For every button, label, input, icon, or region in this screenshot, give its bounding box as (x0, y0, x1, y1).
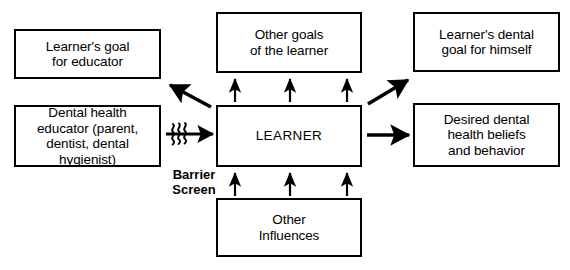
arrow-group-learner-to-other-goals (235, 79, 347, 102)
node-dental-health-educator: Dental health educator (parent, dentist,… (14, 105, 161, 167)
edge-label-barrier-screen: Barrier Screen (164, 168, 224, 197)
node-label: Learner's goal for educator (42, 39, 134, 70)
arrow-group-other-influences-to-learner (235, 173, 347, 196)
barrier-screen-arrow (166, 123, 213, 145)
diagram-canvas: Learner's goal for educator Dental healt… (0, 0, 570, 270)
node-other-influences: Other Influences (216, 198, 362, 257)
diagonal-arrow-learner-to-learner-dental-goal (368, 80, 408, 104)
node-label: Other goals of the learner (246, 27, 332, 58)
node-learners-dental-goal-for-himself: Learner's dental goal for himself (413, 12, 560, 72)
node-label: Dental health educator (parent, dentist,… (33, 105, 142, 167)
node-label: LEARNER (252, 128, 327, 144)
node-learner: LEARNER (216, 105, 362, 167)
node-label: Other Influences (255, 212, 324, 243)
barrier-squiggle-icon (172, 123, 186, 145)
node-learner-goal-for-educator: Learner's goal for educator (14, 29, 161, 79)
node-desired-dental-health-beliefs-and-behavior: Desired dental health beliefs and behavi… (413, 103, 560, 167)
node-label: Learner's dental goal for himself (435, 27, 538, 58)
node-other-goals-of-the-learner: Other goals of the learner (216, 12, 362, 73)
diagonal-arrow-learner-to-learner-goal-educator (170, 85, 211, 107)
node-label: Desired dental health beliefs and behavi… (440, 112, 534, 159)
